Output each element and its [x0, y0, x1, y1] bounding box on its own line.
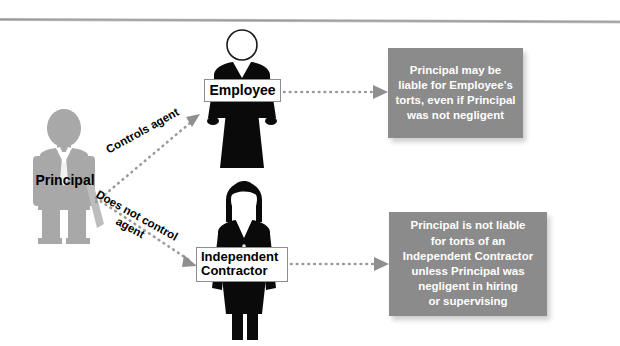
- statement-employee-line2: liable for Employee's: [398, 78, 513, 93]
- statement-contractor-line2: for torts of an: [431, 234, 506, 249]
- principal-label: Principal: [24, 172, 106, 188]
- diagram-canvas: Principal Employee Independent Contracto…: [0, 0, 620, 346]
- statement-contractor-line5: negligent in hiring: [418, 279, 518, 294]
- connector-contractor-to-statement: [291, 257, 389, 271]
- statement-contractor-line6: or supervising: [428, 294, 507, 309]
- connector-employee-to-statement: [284, 85, 388, 99]
- statement-box-employee: Principal may be liable for Employee's t…: [388, 48, 523, 138]
- statement-employee-line3: torts, even if Principal: [395, 93, 515, 108]
- employee-label-text: Employee: [209, 82, 275, 98]
- contractor-label-line1: Independent: [201, 250, 287, 264]
- statement-employee-line4: was not negligent: [407, 108, 504, 123]
- contractor-label-line2: Contractor: [201, 264, 287, 278]
- statement-contractor-line4: unless Principal was: [411, 264, 524, 279]
- connector-label-does-not-control-agent: Does not control agent: [87, 188, 180, 256]
- statement-box-contractor: Principal is not liable for torts of an …: [389, 212, 547, 316]
- statement-employee-line1: Principal may be: [410, 63, 501, 78]
- statement-contractor-line1: Principal is not liable: [410, 218, 525, 233]
- statement-contractor-line3: Independent Contractor: [403, 249, 533, 264]
- connector-label-controls-agent: Controls agent: [104, 106, 182, 157]
- contractor-label-box: Independent Contractor: [196, 247, 288, 282]
- employee-label-box: Employee: [204, 79, 281, 102]
- top-divider-line: [0, 18, 620, 23]
